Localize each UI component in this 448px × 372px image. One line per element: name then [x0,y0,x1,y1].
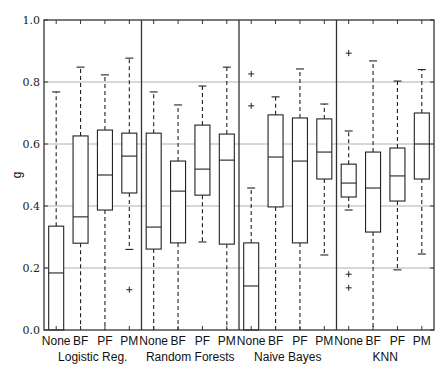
group-label: Naive Bayes [254,350,321,364]
box-pf [292,69,307,330]
category-label: PF [292,334,307,348]
x-axis-labels: NoneBFPFPMLogistic Reg.NoneBFPFPMRandom … [42,334,431,364]
boxplot-chart: 0.00.20.40.60.81.0 NoneBFPFPMLogistic Re… [0,0,448,372]
category-label: None [42,334,71,348]
outlier-marker [346,50,352,56]
group-label: KNN [373,350,398,364]
category-label: BF [365,334,380,348]
iqr-box [366,152,381,232]
category-label: BF [73,334,88,348]
group-random-forests [146,67,234,330]
box-pm [414,70,429,254]
iqr-box [195,125,210,195]
iqr-box [390,148,405,201]
iqr-box [317,119,332,179]
box-pm [122,58,137,293]
category-label: None [139,334,168,348]
iqr-box [97,130,112,210]
iqr-box [292,118,307,243]
iqr-box [73,136,88,243]
y-tick-label: 1.0 [23,14,41,27]
category-label: PF [97,334,112,348]
y-tick-label: 0.8 [23,76,41,89]
iqr-box [171,161,186,243]
box-pm [317,104,332,255]
category-label: PF [195,334,210,348]
outlier-marker [346,285,352,291]
y-tick-label: 0.4 [23,200,41,213]
category-label: BF [268,334,283,348]
outlier-marker [248,71,254,77]
outlier-marker [346,271,352,277]
category-label: None [237,334,266,348]
outlier-marker [126,287,132,293]
box-none [146,92,161,330]
category-label: PM [120,334,138,348]
box-pf [195,86,210,242]
iqr-box [341,164,356,197]
iqr-box [414,113,429,179]
category-label: PF [390,334,405,348]
y-tick-label: 0.6 [23,138,41,151]
box-none [341,50,356,291]
box-none [49,92,64,330]
box-bf [171,105,186,330]
box-bf [268,97,283,330]
box-pm [219,67,234,330]
iqr-box [49,226,64,330]
iqr-box [122,133,137,193]
group-label: Random Forests [146,350,235,364]
iqr-box [268,115,283,207]
category-label: None [334,334,363,348]
box-none [244,71,259,330]
group-naive-bayes [244,69,332,330]
box-pf [97,75,112,330]
category-label: PM [315,334,333,348]
category-label: PM [413,334,431,348]
y-tick-label: 0.2 [23,262,41,275]
box-bf [366,61,381,330]
group-knn [341,50,429,330]
group-label: Logistic Reg. [58,350,127,364]
y-axis-label: g [10,172,24,179]
category-label: PM [218,334,236,348]
iqr-box [146,133,161,249]
group-logistic-reg [49,58,137,330]
iqr-box [219,134,234,244]
outlier-marker [248,103,254,109]
box-pf [390,81,405,270]
y-tick-label: 0.0 [23,324,41,337]
category-label: BF [170,334,185,348]
box-bf [73,67,88,330]
